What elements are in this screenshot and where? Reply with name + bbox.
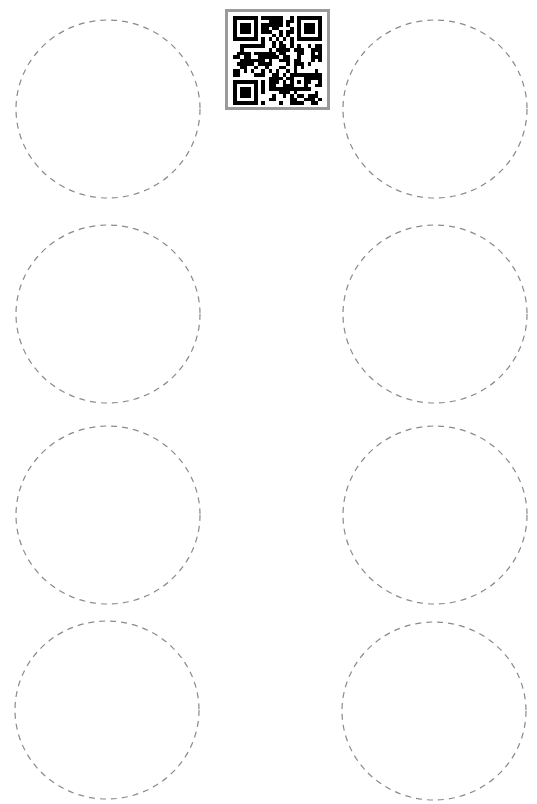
label-circle [13, 619, 201, 801]
label-circle [340, 620, 528, 802]
qr-code-icon [233, 16, 322, 105]
qr-code [225, 9, 330, 110]
label-circle [14, 223, 202, 405]
label-circle [14, 424, 202, 606]
label-circle [341, 18, 529, 200]
label-circle [341, 223, 529, 405]
label-sheet [0, 0, 537, 804]
label-circle [14, 18, 202, 200]
label-circle [341, 424, 529, 606]
